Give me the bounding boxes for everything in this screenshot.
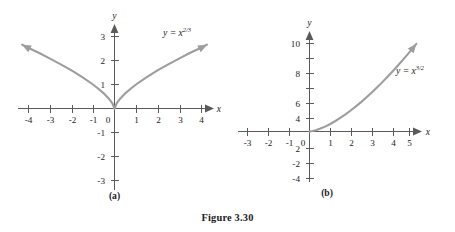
tick-label: -1 [97, 128, 105, 138]
tick-label: 1 [134, 115, 139, 125]
panel-a-curve-right [115, 45, 207, 109]
panel-b-equation-base: y = x [395, 65, 417, 76]
tick-label: 6 [295, 99, 300, 109]
tick-label: 3 [100, 32, 105, 42]
panel-b: x y -3 -2 -1 0 1 [238, 17, 431, 199]
panel-a-curve-left [22, 45, 114, 109]
figure-svg: x y -4 -3 -2 -1 [0, 0, 455, 232]
tick-label: 2 [349, 138, 354, 148]
tick-label: 10 [291, 39, 301, 49]
origin-label: 0 [106, 115, 111, 125]
tick-label: 5 [407, 138, 412, 148]
tick-label: -2 [292, 159, 300, 169]
tick-label: 1 [100, 80, 105, 90]
tick-label: 3 [370, 138, 375, 148]
tick-label: -1 [90, 115, 98, 125]
tick-label: -3 [47, 115, 55, 125]
tick-label: -2 [69, 115, 77, 125]
tick-label: -4 [292, 174, 300, 184]
panel-b-x-axis-label: x [425, 126, 431, 137]
panel-b-equation-label: y = x3/2 [395, 64, 425, 76]
panel-b-curve [310, 44, 417, 132]
panel-a-y-axis-arrow-icon [111, 24, 119, 33]
panel-a: x y -4 -3 -2 -1 [18, 10, 222, 202]
tick-label: 4 [391, 138, 396, 148]
panel-a-equation-label: y = x2/3 [162, 26, 191, 38]
panel-b-equation-exponent: 3/2 [415, 64, 425, 71]
tick-label: -3 [97, 176, 105, 186]
tick-label: 4 [199, 115, 204, 125]
panel-b-y-axis-label: y [306, 17, 312, 28]
tick-label: -4 [25, 115, 33, 125]
tick-label: 1 [328, 138, 333, 148]
tick-label: 2 [156, 115, 161, 125]
tick-label: -2 [97, 152, 105, 162]
panel-b-y-tick-labels: 10 8 6 4 2 -2 -4 [291, 39, 301, 184]
figure-container: x y -4 -3 -2 -1 [0, 0, 455, 232]
tick-label: -2 [265, 138, 273, 148]
panel-b-x-axis-arrow-icon [413, 128, 422, 136]
panel-a-equation-exponent: 2/3 [183, 26, 191, 33]
tick-label: 2 [100, 56, 105, 66]
tick-label: -3 [244, 138, 252, 148]
tick-label: -1 [286, 138, 294, 148]
tick-label: 3 [178, 115, 183, 125]
panel-a-label: (a) [109, 190, 120, 202]
panel-a-equation-base: y = x [162, 27, 184, 38]
panel-b-x-tick-labels: -3 -2 -1 0 1 2 3 4 5 [244, 138, 413, 148]
panel-a-y-axis-label: y [111, 10, 117, 21]
tick-label: 4 [295, 114, 300, 124]
panel-a-x-axis-arrow-icon [205, 105, 214, 113]
origin-label: 0 [301, 138, 306, 148]
tick-label: 2 [295, 144, 300, 154]
figure-caption: Figure 3.30 [201, 212, 253, 223]
tick-label: 8 [295, 69, 300, 79]
panel-b-label: (b) [321, 187, 333, 199]
panel-a-x-axis-label: x [216, 103, 222, 114]
panel-b-y-axis-arrow-icon [306, 31, 314, 40]
